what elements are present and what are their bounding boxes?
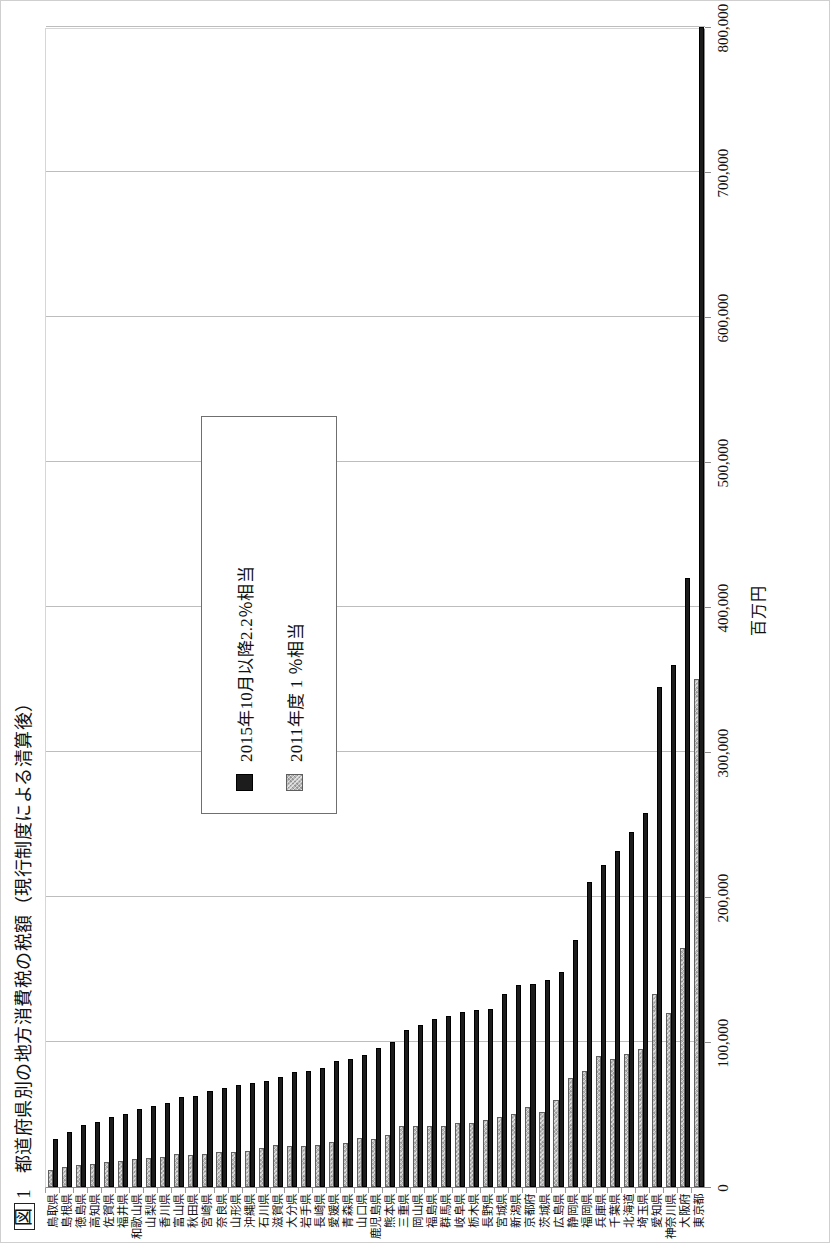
category-label: 青森県: [339, 1194, 355, 1243]
plot-area: [45, 28, 705, 1188]
gridline: [46, 316, 705, 317]
category-tick: [228, 1188, 229, 1193]
category-tick: [691, 1188, 692, 1193]
category-tick: [157, 1188, 158, 1193]
category-tick: [466, 1188, 467, 1193]
bar-2015: [222, 1088, 227, 1187]
category-label: 山口県: [353, 1194, 369, 1243]
gridline: [46, 896, 705, 897]
category-tick: [551, 1188, 552, 1193]
category-label: 鳥取県: [44, 1194, 60, 1243]
legend-swatch-2015-icon: [236, 774, 253, 791]
category-tick: [143, 1188, 144, 1193]
category-label: 山梨県: [142, 1194, 158, 1243]
category-tick: [326, 1188, 327, 1193]
value-tick: [705, 172, 711, 173]
bar-2015: [137, 1109, 142, 1187]
gridline: [46, 26, 705, 27]
value-tick-label: 300,000: [715, 729, 732, 778]
bar-2015: [123, 1115, 128, 1188]
value-tick-label: 700,000: [715, 149, 732, 198]
category-label: 京都府: [521, 1194, 537, 1243]
category-label: 沖縄県: [241, 1194, 257, 1243]
category-tick: [298, 1188, 299, 1193]
category-tick: [129, 1188, 130, 1193]
bar-2015: [418, 1025, 423, 1187]
category-label: 長崎県: [311, 1194, 327, 1243]
category-tick: [270, 1188, 271, 1193]
category-label: 山形県: [227, 1194, 243, 1243]
category-label: 神奈川県: [662, 1194, 678, 1243]
bar-2015: [685, 578, 690, 1187]
figure-number: 1: [14, 1189, 34, 1199]
category-label: 島根県: [58, 1194, 74, 1243]
value-tick-label: 600,000: [715, 294, 732, 343]
gridline: [46, 171, 705, 172]
bar-2015: [193, 1096, 198, 1187]
category-tick: [424, 1188, 425, 1193]
category-tick: [508, 1188, 509, 1193]
category-label: 熊本県: [381, 1194, 397, 1243]
gridline: [46, 606, 705, 607]
bar-2015: [502, 994, 507, 1187]
bar-2015: [573, 941, 578, 1188]
category-tick: [480, 1188, 481, 1193]
bar-2015: [545, 980, 550, 1187]
figure-page: 図 1都道府県別の地方消費税の税額（現行制度による清算後） 800,000700…: [0, 0, 830, 1243]
category-label: 宮崎県: [198, 1194, 214, 1243]
category-label: 福島県: [423, 1194, 439, 1243]
category-tick: [242, 1188, 243, 1193]
category-tick: [73, 1188, 74, 1193]
bar-2015: [432, 1019, 437, 1187]
category-label: 佐賀県: [100, 1194, 116, 1243]
category-label: 高知県: [86, 1194, 102, 1243]
category-label: 石川県: [255, 1194, 271, 1243]
value-tick-label: 100,000: [715, 1019, 732, 1068]
bar-2015: [236, 1086, 241, 1188]
bar-2015: [671, 665, 676, 1187]
category-tick: [621, 1188, 622, 1193]
bar-2015: [629, 832, 634, 1187]
bar-2015: [53, 1139, 58, 1187]
category-label: 鹿児島県: [367, 1194, 383, 1243]
category-tick: [59, 1188, 60, 1193]
category-tick: [635, 1188, 636, 1193]
category-label: 岐阜県: [451, 1194, 467, 1243]
category-tick: [354, 1188, 355, 1193]
category-tick: [579, 1188, 580, 1193]
category-tick: [677, 1188, 678, 1193]
bar-2015: [292, 1072, 297, 1187]
category-label: 栃木県: [465, 1194, 481, 1243]
value-tick: [705, 607, 711, 608]
category-label: 富山県: [170, 1194, 186, 1243]
gridline: [46, 1041, 705, 1042]
category-tick: [171, 1188, 172, 1193]
category-label: 長野県: [479, 1194, 495, 1243]
bar-2015: [179, 1097, 184, 1187]
legend-label-2011: 2011年度 1 ％相当: [282, 623, 307, 762]
chart-legend: 2015年10月以降2.2％相当 2011年度 1 ％相当: [201, 416, 337, 814]
legend-item-2011: 2011年度 1 ％相当: [282, 623, 307, 791]
bar-2015: [390, 1042, 395, 1187]
category-tick: [214, 1188, 215, 1193]
gridline: [46, 751, 705, 752]
category-axis-line: [704, 29, 705, 1187]
category-label: 静岡県: [564, 1194, 580, 1243]
bar-2015: [601, 865, 606, 1187]
bar-2015: [404, 1030, 409, 1187]
category-label: 広島県: [550, 1194, 566, 1243]
category-label: 北海道: [620, 1194, 636, 1243]
category-tick: [649, 1188, 650, 1193]
category-tick: [368, 1188, 369, 1193]
category-tick: [452, 1188, 453, 1193]
category-tick: [340, 1188, 341, 1193]
bar-2015: [306, 1071, 311, 1187]
category-label: 三重県: [395, 1194, 411, 1243]
bar-2015: [488, 1009, 493, 1187]
bar-2015: [264, 1081, 269, 1187]
value-tick-label: 500,000: [715, 439, 732, 488]
category-tick: [593, 1188, 594, 1193]
bar-2015: [278, 1077, 283, 1187]
category-label: 新潟県: [507, 1194, 523, 1243]
bar-2015: [151, 1106, 156, 1187]
